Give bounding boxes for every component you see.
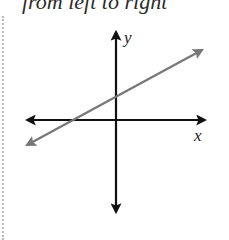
y-axis-label: y — [122, 28, 132, 47]
x-axis-label: x — [193, 126, 202, 145]
graph-line — [27, 50, 202, 145]
coordinate-graph: y x — [0, 0, 229, 240]
